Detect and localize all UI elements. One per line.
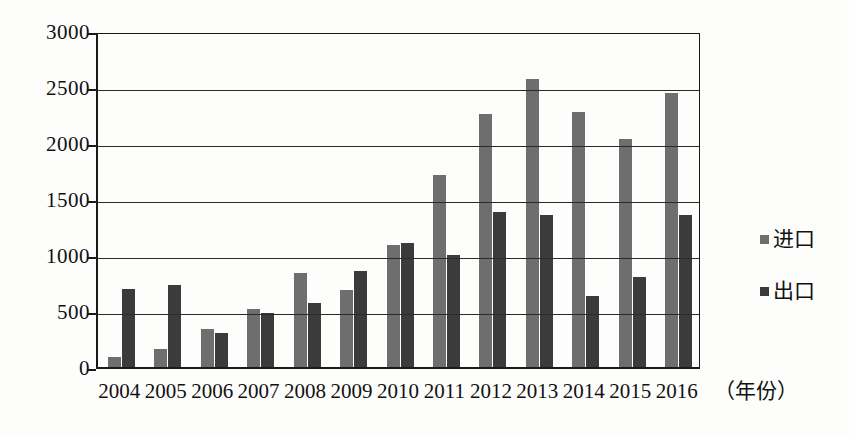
legend-label-export: 出口 xyxy=(773,280,815,302)
x-axis-labels: 2004200520062007200820092010201120122013… xyxy=(96,378,700,408)
legend-swatch-export-icon xyxy=(760,287,769,296)
bar-export xyxy=(633,277,646,367)
gridline xyxy=(98,90,699,91)
plot-area xyxy=(96,33,700,369)
x-tick-label: 2011 xyxy=(421,378,467,404)
y-tick-label: 3000 xyxy=(6,22,90,43)
y-tick-label: 0 xyxy=(6,358,90,379)
bar-import xyxy=(479,114,492,367)
bar-group xyxy=(201,34,228,367)
bar-import xyxy=(340,290,353,367)
gridline xyxy=(98,314,699,315)
y-tick-mark xyxy=(88,369,96,371)
y-tick-label: 1500 xyxy=(6,190,90,211)
y-tick-label: 500 xyxy=(6,302,90,323)
bar-group xyxy=(387,34,414,367)
bar-import xyxy=(154,349,167,367)
x-tick-label: 2004 xyxy=(96,378,142,404)
y-tick-mark xyxy=(88,313,96,315)
bar-import xyxy=(201,329,214,367)
y-tick-mark xyxy=(88,145,96,147)
bar-export xyxy=(401,243,414,367)
bar-export xyxy=(168,285,181,367)
bar-import xyxy=(247,309,260,367)
bar-export xyxy=(586,296,599,367)
x-tick-label: 2016 xyxy=(654,378,700,404)
x-tick-label: 2005 xyxy=(142,378,188,404)
bar-export xyxy=(540,215,553,367)
bars-layer xyxy=(98,34,699,367)
x-tick-label: 2014 xyxy=(561,378,607,404)
gridline xyxy=(98,202,699,203)
y-tick-label: 1000 xyxy=(6,246,90,267)
y-tick-label: 2000 xyxy=(6,134,90,155)
bar-group xyxy=(433,34,460,367)
bar-group xyxy=(479,34,506,367)
legend-item-export: 出口 xyxy=(760,280,848,302)
bar-import xyxy=(387,245,400,367)
bar-import xyxy=(572,112,585,367)
bar-group xyxy=(619,34,646,367)
bar-group xyxy=(526,34,553,367)
bar-group xyxy=(247,34,274,367)
bar-import xyxy=(433,175,446,367)
x-tick-label: 2010 xyxy=(375,378,421,404)
bar-import xyxy=(619,139,632,367)
x-tick-label: 2006 xyxy=(189,378,235,404)
bar-export xyxy=(261,313,274,367)
bar-group xyxy=(294,34,321,367)
bar-export xyxy=(215,333,228,367)
x-tick-label: 2007 xyxy=(235,378,281,404)
bar-import xyxy=(526,79,539,367)
bar-group xyxy=(665,34,692,367)
x-axis-title: （年份） xyxy=(714,378,798,404)
legend-item-import: 进口 xyxy=(760,228,848,250)
x-tick-label: 2013 xyxy=(514,378,560,404)
bar-export xyxy=(122,289,135,367)
bar-import xyxy=(294,273,307,367)
y-tick-label: 2500 xyxy=(6,78,90,99)
bar-export xyxy=(447,255,460,367)
x-tick-label: 2009 xyxy=(328,378,374,404)
legend-swatch-import-icon xyxy=(760,235,769,244)
y-tick-mark xyxy=(88,201,96,203)
x-tick-label: 2012 xyxy=(468,378,514,404)
bar-group xyxy=(572,34,599,367)
legend-label-import: 进口 xyxy=(773,228,815,250)
bar-export xyxy=(308,303,321,367)
y-axis: 300025002000150010005000 xyxy=(0,0,90,437)
gridline xyxy=(98,258,699,259)
x-tick-label: 2015 xyxy=(607,378,653,404)
bar-group xyxy=(108,34,135,367)
gridline xyxy=(98,146,699,147)
bar-export xyxy=(493,212,506,367)
x-tick-label: 2008 xyxy=(282,378,328,404)
y-tick-mark xyxy=(88,257,96,259)
bar-chart: 300025002000150010005000 200420052006200… xyxy=(0,0,849,437)
bar-group xyxy=(154,34,181,367)
bar-export xyxy=(354,271,367,367)
y-tick-mark xyxy=(88,33,96,35)
bar-export xyxy=(679,215,692,367)
bar-group xyxy=(340,34,367,367)
y-tick-mark xyxy=(88,89,96,91)
bar-import xyxy=(108,357,121,367)
chart-legend: 进口 出口 xyxy=(760,228,848,332)
bar-import xyxy=(665,93,678,367)
